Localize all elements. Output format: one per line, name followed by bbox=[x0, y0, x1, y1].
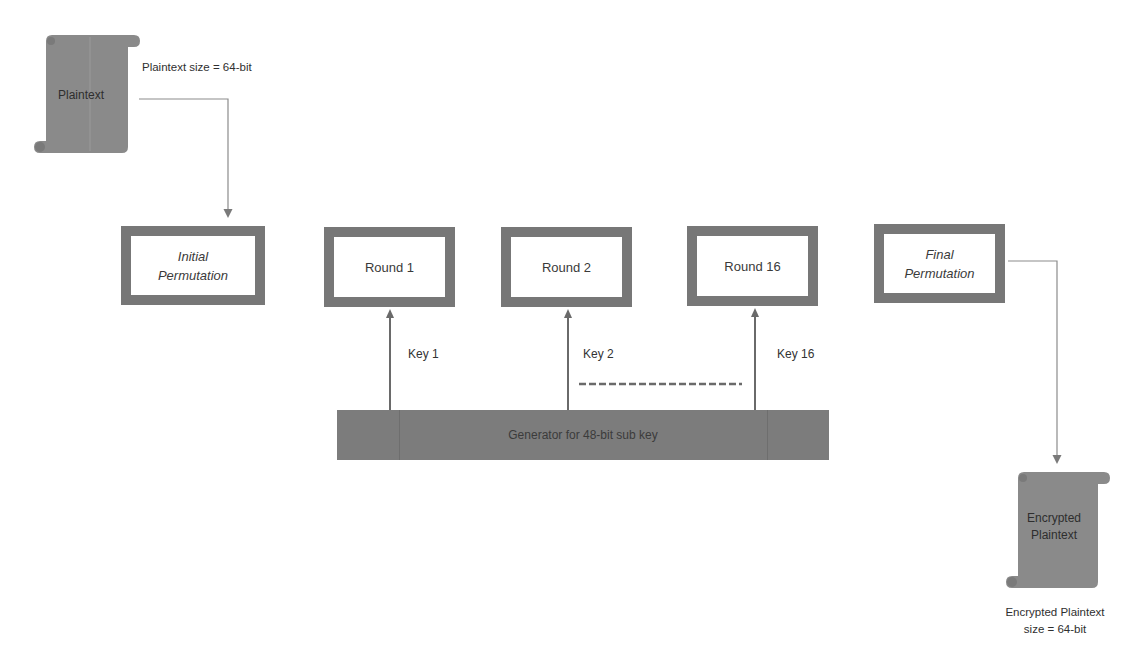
initial-permutation-line2: Permutation bbox=[158, 266, 228, 285]
plaintext-size-caption: Plaintext size = 64-bit bbox=[142, 61, 252, 73]
initial-permutation-box: Initial Permutation bbox=[121, 226, 265, 305]
initial-permutation-line1: Initial bbox=[158, 247, 228, 266]
plaintext-scroll-label: Plaintext bbox=[36, 87, 126, 104]
encrypted-scroll-text: Encrypted Plaintext bbox=[1010, 510, 1098, 544]
key-2-arrow bbox=[564, 309, 572, 410]
generator-divider bbox=[767, 410, 768, 460]
key-16-arrow bbox=[751, 308, 759, 410]
plaintext-to-initial-permutation-arrow bbox=[139, 99, 233, 218]
plaintext-scroll: Plaintext bbox=[32, 35, 140, 157]
encrypted-scroll-line2: Plaintext bbox=[1010, 527, 1098, 544]
round-1-box: Round 1 bbox=[324, 227, 455, 307]
encrypted-plaintext-scroll: Encrypted Plaintext bbox=[1004, 472, 1110, 592]
final-permutation-line2: Permutation bbox=[904, 264, 974, 283]
encrypted-scroll-line1: Encrypted bbox=[1010, 510, 1098, 527]
final-permutation-line1: Final bbox=[904, 245, 974, 264]
connectors-layer bbox=[0, 0, 1139, 665]
key-1-arrow bbox=[386, 309, 394, 410]
generator-divider bbox=[399, 410, 400, 460]
final-permutation-to-output-arrow bbox=[1008, 261, 1062, 464]
key-16-label: Key 16 bbox=[777, 347, 814, 361]
round-2-label: Round 2 bbox=[542, 258, 591, 277]
key-1-label: Key 1 bbox=[408, 347, 439, 361]
round-2-box: Round 2 bbox=[501, 227, 632, 307]
subkey-generator-label: Generator for 48-bit sub key bbox=[508, 428, 657, 442]
final-permutation-box: Final Permutation bbox=[874, 224, 1005, 303]
encrypted-caption-line2: size = 64-bit bbox=[984, 621, 1126, 638]
encrypted-size-caption: Encrypted Plaintext size = 64-bit bbox=[984, 604, 1126, 638]
round-16-box: Round 16 bbox=[687, 226, 818, 306]
subkey-generator-bar: Generator for 48-bit sub key bbox=[337, 410, 829, 460]
key-2-label: Key 2 bbox=[583, 347, 614, 361]
round-1-label: Round 1 bbox=[365, 258, 414, 277]
encrypted-caption-line1: Encrypted Plaintext bbox=[984, 604, 1126, 621]
round-16-label: Round 16 bbox=[724, 257, 780, 276]
